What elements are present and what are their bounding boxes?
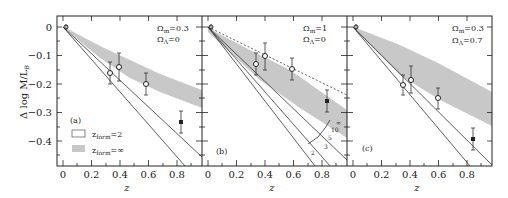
svg-text:5: 5 — [328, 134, 332, 141]
svg-text:0.4: 0.4 — [112, 169, 128, 180]
svg-text:3: 3 — [324, 143, 328, 150]
x-axis-labels: z z z — [123, 182, 420, 193]
svg-text:0: 0 — [60, 169, 66, 180]
svg-text:0.6: 0.6 — [431, 169, 447, 180]
svg-text:0.6: 0.6 — [141, 169, 157, 180]
svg-text:0: 0 — [205, 169, 211, 180]
omega-m-a: Ωm=0.3 — [157, 24, 189, 34]
omega-l-c: ΩΛ=0.7 — [452, 36, 482, 46]
panel-label-a: (a) — [70, 116, 81, 125]
panel-label-b: (b) — [216, 147, 227, 156]
svg-text:0: 0 — [46, 22, 52, 33]
band-zform-inf — [66, 28, 202, 108]
svg-text:z: z — [413, 182, 420, 193]
svg-text:0.6: 0.6 — [286, 169, 302, 180]
band-zform-inf — [208, 28, 347, 138]
svg-text:−0.1: −0.1 — [28, 50, 52, 61]
legend-swatch-open — [72, 130, 85, 137]
svg-text:0.2: 0.2 — [84, 169, 100, 180]
omega-l-b: ΩΛ=0 — [303, 35, 326, 45]
model-line — [208, 27, 347, 160]
omega-m-b: Ωm=1 — [303, 24, 327, 34]
figure: (a) zform=2 zform=∞ Ωm=0.3 ΩΛ=0 2 3 5 10… — [0, 0, 508, 198]
y-tick-labels: 0 −0.1 −0.2 −0.3 −0.4 — [28, 22, 52, 147]
svg-text:−0.4: −0.4 — [28, 136, 52, 147]
svg-text:0.8: 0.8 — [459, 169, 475, 180]
svg-text:0.2: 0.2 — [229, 169, 245, 180]
svg-text:0.8: 0.8 — [169, 169, 185, 180]
panel-label-c: (c) — [362, 144, 373, 153]
legend-label-inf: zform=∞ — [92, 146, 124, 156]
panel-b: 2 3 5 10 ∞ (b) Ωm=1 ΩΛ=0 — [208, 24, 347, 166]
y-axis-label: Δ log M/LB — [18, 64, 30, 118]
svg-text:∞: ∞ — [336, 119, 341, 126]
x-tick-labels: 0 0.2 0.4 0.6 0.8 0 0.2 0.4 0.6 0.8 0 0.… — [60, 169, 475, 180]
legend-label-2: zform=2 — [92, 130, 122, 140]
svg-text:z: z — [123, 182, 130, 193]
svg-text:−0.3: −0.3 — [28, 107, 52, 118]
omega-m-c: Ωm=0.3 — [452, 24, 484, 34]
panel-a: (a) zform=2 zform=∞ Ωm=0.3 ΩΛ=0 — [63, 24, 202, 166]
x-ticks — [63, 16, 481, 166]
svg-text:0.4: 0.4 — [402, 169, 418, 180]
svg-text:10: 10 — [331, 126, 339, 133]
svg-text:0.8: 0.8 — [314, 169, 330, 180]
curve-ticks: 2 3 5 10 ∞ — [308, 119, 341, 156]
panel-c: (c) Ωm=0.3 ΩΛ=0.7 — [353, 24, 492, 166]
svg-text:z: z — [268, 182, 275, 193]
svg-text:0.2: 0.2 — [374, 169, 390, 180]
legend-swatch-band — [72, 145, 85, 152]
svg-text:−0.2: −0.2 — [28, 79, 52, 90]
svg-text:0.4: 0.4 — [257, 169, 273, 180]
svg-text:2: 2 — [311, 149, 315, 156]
omega-l-a: ΩΛ=0 — [157, 35, 180, 45]
svg-text:0: 0 — [350, 169, 356, 180]
